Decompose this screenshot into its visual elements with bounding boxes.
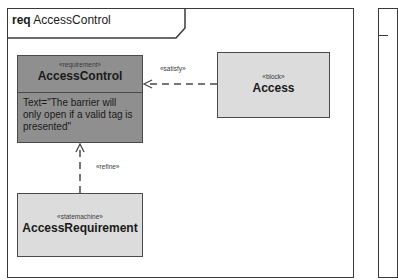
stereotype-label: «requirement» [18, 56, 142, 69]
statemachine-access-requirement[interactable]: «statemachine» AccessRequirement [17, 193, 143, 257]
refine-label: «refine» [96, 163, 120, 170]
frame-name: AccessControl [33, 13, 110, 27]
requirement-access-control[interactable]: «requirement» AccessControl Text="The ba… [17, 55, 143, 143]
statemachine-name: AccessRequirement [18, 221, 142, 235]
frame-title: req AccessControl [12, 13, 111, 27]
requirement-name: AccessControl [18, 69, 142, 83]
frame-kind: req [12, 13, 31, 27]
stereotype-label: «statemachine» [18, 194, 142, 221]
requirement-header: «requirement» AccessControl [18, 56, 142, 93]
satisfy-label: «satisfy» [160, 65, 186, 72]
block-name: Access [218, 81, 329, 95]
requirement-text: Text="The barrier will only open if a va… [18, 93, 142, 137]
block-access[interactable]: «block» Access [217, 52, 330, 118]
stereotype-label: «block» [218, 53, 329, 81]
